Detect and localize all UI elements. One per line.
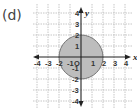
y-axis-arrow-up-icon — [79, 7, 84, 13]
y-tick: 4 — [75, 9, 80, 18]
x-tick: 1 — [91, 59, 95, 68]
x-tick: 2 — [102, 59, 106, 68]
y-tick: -3 — [72, 86, 79, 95]
x-tick: 3 — [113, 59, 117, 68]
y-tick: 1 — [75, 42, 79, 51]
x-tick: -3 — [45, 59, 52, 68]
y-tick: -2 — [72, 75, 79, 84]
x-tick: -2 — [56, 59, 63, 68]
x-tick: 4 — [124, 59, 129, 68]
coordinate-plane: x y -4 -3 -2 -1 1 2 3 4 O 4 3 2 1 -1 -2 … — [0, 0, 137, 112]
x-tick: -4 — [34, 59, 41, 68]
y-tick: -4 — [72, 97, 79, 106]
y-tick: 2 — [75, 31, 79, 40]
y-tick: 3 — [75, 20, 79, 29]
x-axis-name: x — [132, 52, 137, 62]
y-tick: -1 — [72, 64, 79, 73]
y-axis-arrow-down-icon — [79, 101, 84, 107]
